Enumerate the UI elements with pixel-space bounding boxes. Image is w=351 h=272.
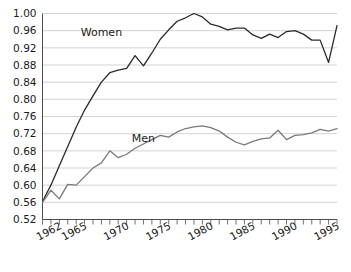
- y-tick-label: 0.68: [13, 145, 36, 157]
- data-series: [43, 14, 338, 203]
- x-tick-label: 1965: [59, 219, 88, 242]
- y-tick-label: 0.84: [13, 76, 37, 88]
- chart-container: 0.520.560.600.640.680.720.760.800.840.88…: [0, 0, 351, 272]
- x-tick-label: 1985: [228, 219, 257, 242]
- x-tick-label: 1990: [270, 219, 299, 242]
- series-label-women: Women: [81, 26, 122, 39]
- y-tick-label: 1.00: [13, 7, 36, 19]
- x-tick-label: 1962: [34, 219, 63, 242]
- y-tick-label: 0.60: [13, 179, 36, 191]
- y-tick-label: 0.88: [13, 59, 36, 71]
- y-tick-label: 0.72: [13, 127, 36, 139]
- series-inline-labels: WomenMen: [81, 26, 155, 145]
- series-label-men: Men: [132, 132, 155, 145]
- y-tick-label: 0.92: [13, 42, 36, 54]
- series-line-women: [43, 14, 338, 202]
- y-tick-label: 0.56: [13, 196, 37, 208]
- y-axis-tick-labels: 0.520.560.600.640.680.720.760.800.840.88…: [13, 7, 37, 225]
- x-tick-label: 1975: [143, 219, 172, 242]
- x-axis-tick-labels: 19621965197019751980198519901995: [34, 219, 341, 242]
- x-tick-label: 1970: [101, 219, 130, 242]
- x-tick-label: 1980: [186, 219, 215, 242]
- y-tick-label: 0.76: [13, 110, 37, 122]
- y-tick-label: 0.64: [13, 162, 37, 174]
- y-tick-label: 0.80: [13, 93, 36, 105]
- series-line-men: [43, 126, 338, 202]
- x-tick-label: 1995: [312, 219, 341, 242]
- line-chart: 0.520.560.600.640.680.720.760.800.840.88…: [0, 0, 351, 272]
- y-tick-label: 0.52: [13, 213, 36, 225]
- y-tick-label: 0.96: [13, 24, 37, 36]
